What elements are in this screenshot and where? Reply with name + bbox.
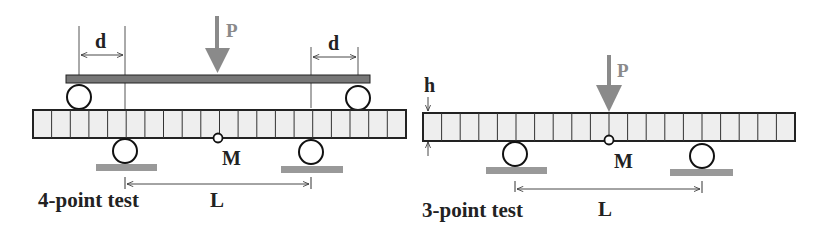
loading-plate [66,75,370,83]
span-label: L [598,197,612,221]
support-base-left [96,164,157,171]
span-dimension [515,181,702,193]
load-label: P [617,60,629,81]
three-point-test: P h M [422,55,795,222]
diagram-title: 3-point test [422,198,523,222]
load-label: P [226,20,238,41]
diagram-title: 4-point test [38,188,139,212]
midpoint-marker [605,136,614,145]
offset-label-right: d [328,32,339,54]
support-base-right [670,169,733,176]
flexural-test-diagram: P d d [0,0,825,233]
height-label: h [424,74,435,96]
support-roller-right [299,140,323,164]
four-point-test: P d d [33,16,406,212]
support-roller-left [113,139,137,163]
midpoint-marker [214,134,223,143]
support-base-right [281,166,343,173]
span-label: L [210,188,224,212]
midpoint-label: M [614,150,633,172]
upper-roller-right [346,86,370,110]
support-base-left [486,167,547,174]
offset-label-left: d [95,30,106,52]
support-roller-left [503,142,527,166]
midpoint-label: M [222,147,241,169]
upper-roller-left [67,85,91,109]
support-roller-right [690,144,714,168]
